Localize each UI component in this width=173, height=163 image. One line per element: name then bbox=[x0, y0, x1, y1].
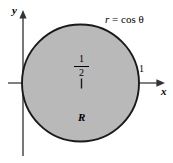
curve-equation-equals-sign: = bbox=[109, 13, 121, 25]
curve-equation-label: r = cos θ bbox=[105, 14, 144, 25]
x-intercept-label: 1 bbox=[139, 64, 144, 74]
polar-circle-figure: y x r = cos θ 1 2 1 R bbox=[0, 0, 173, 163]
fraction-numerator: 1 bbox=[74, 54, 89, 65]
polar-circle-region bbox=[22, 25, 139, 142]
y-axis-label: y bbox=[12, 5, 17, 16]
x-axis-label: x bbox=[161, 86, 167, 97]
figure-canvas bbox=[0, 0, 173, 163]
fraction-denominator: 2 bbox=[74, 68, 89, 79]
y-axis-arrowhead bbox=[19, 10, 26, 18]
region-label: R bbox=[78, 112, 85, 123]
half-fraction-label: 1 2 bbox=[74, 54, 89, 78]
curve-equation-expression: cos θ bbox=[121, 13, 144, 25]
